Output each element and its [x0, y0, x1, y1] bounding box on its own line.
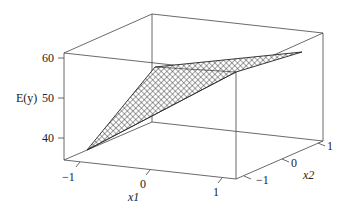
x1-tick-0: 0 — [140, 177, 146, 191]
z-axis: 60 50 40 E(y) — [16, 51, 64, 145]
x1-tick-1: 1 — [213, 185, 219, 199]
x1-axis-label: x1 — [127, 190, 139, 204]
x2-tick-neg1: −1 — [256, 173, 269, 187]
z-tick-50: 50 — [42, 91, 54, 105]
z-axis-label: E(y) — [16, 91, 37, 105]
x2-tick-1: 1 — [327, 139, 333, 153]
z-tick-40: 40 — [42, 131, 54, 145]
x1-tick-neg1: −1 — [62, 170, 75, 184]
x2-axis-label: x2 — [302, 168, 314, 182]
surface-plot: 60 50 40 E(y) −1 0 1 x1 −1 0 1 x2 — [0, 0, 345, 211]
x2-axis: −1 0 1 x2 — [244, 139, 333, 187]
x2-tick-0: 0 — [291, 156, 297, 170]
z-tick-60: 60 — [42, 51, 54, 65]
